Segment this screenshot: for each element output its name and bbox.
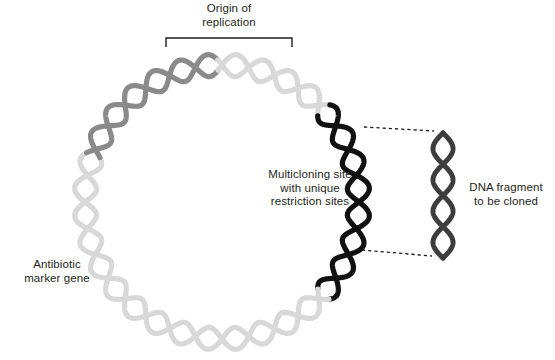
plasmid-strand-segment xyxy=(218,60,222,65)
label-multicloning-site: Multicloning site with unique restrictio… xyxy=(243,168,377,209)
origin-of-replication-bracket xyxy=(166,38,292,47)
dotted-connector-top xyxy=(364,127,434,131)
label-dna-fragment: DNA fragment to be cloned xyxy=(458,181,554,208)
dna-fragment-helix xyxy=(433,133,453,258)
bracket-path xyxy=(166,38,292,47)
plasmid-diagram: Origin of replication Multicloning site … xyxy=(0,0,555,360)
label-antibiotic-marker-gene: Antibiotic marker gene xyxy=(2,258,112,285)
dotted-connector-bottom xyxy=(362,250,432,256)
label-origin-of-replication: Origin of replication xyxy=(151,2,307,29)
